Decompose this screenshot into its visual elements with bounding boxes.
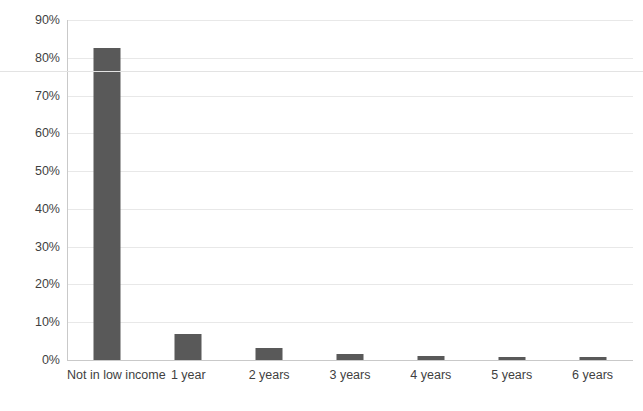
y-axis-tick-label: 0% bbox=[4, 354, 60, 367]
y-axis-tick-label: 80% bbox=[4, 52, 60, 65]
y-axis-tick-label: 50% bbox=[4, 165, 60, 178]
x-axis-tick-label: 5 years bbox=[471, 368, 552, 382]
y-axis-tick-label: 90% bbox=[4, 14, 60, 27]
y-axis-tick-label: 10% bbox=[4, 316, 60, 329]
x-axis-tick-label: 1 year bbox=[148, 368, 229, 382]
x-axis-tick-label: 3 years bbox=[310, 368, 391, 382]
x-axis-tick-label: 6 years bbox=[552, 368, 633, 382]
y-axis-tick-label: 70% bbox=[4, 90, 60, 103]
x-axis-tick-label: 2 years bbox=[229, 368, 310, 382]
y-axis-tick-label: 20% bbox=[4, 278, 60, 291]
x-axis-line bbox=[67, 360, 633, 361]
y-axis-tick-label: 30% bbox=[4, 241, 60, 254]
y-axis-tick-labels: 0%10%20%30%40%50%60%70%80%90% bbox=[0, 0, 60, 411]
x-axis-tick-label: 4 years bbox=[390, 368, 471, 382]
bar[interactable] bbox=[94, 48, 121, 360]
bar-chart: 0%10%20%30%40%50%60%70%80%90% Not in low… bbox=[0, 0, 643, 411]
y-axis-tick-label: 60% bbox=[4, 127, 60, 140]
x-axis-tick-label: Not in low income bbox=[67, 368, 148, 382]
page-rule-artifact bbox=[0, 71, 643, 72]
bar[interactable] bbox=[256, 348, 283, 360]
y-axis-tick-label: 40% bbox=[4, 203, 60, 216]
bar[interactable] bbox=[175, 334, 202, 360]
